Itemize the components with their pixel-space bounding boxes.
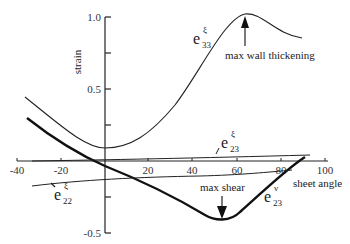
- curve-e33-xi: [25, 14, 302, 148]
- label-e22-xi: e ξ 22: [51, 181, 72, 206]
- svg-text:22: 22: [63, 196, 72, 206]
- x-tick-20: 20: [143, 164, 155, 176]
- arrow-up-icon: [241, 16, 249, 28]
- x-tick-neg20: -20: [54, 164, 69, 176]
- svg-text:ξ: ξ: [203, 25, 207, 35]
- x-tick-neg40: -40: [10, 164, 25, 176]
- svg-text:e: e: [54, 186, 61, 203]
- svg-text:ξ: ξ: [64, 181, 68, 191]
- y-tick-1: 1.0: [87, 11, 101, 23]
- x-tick-40: 40: [187, 164, 199, 176]
- label-e33-xi: e ξ 33: [193, 25, 212, 50]
- arrow-down-icon: [217, 206, 227, 219]
- svg-text:23: 23: [273, 198, 283, 208]
- svg-text:e: e: [193, 30, 200, 47]
- curve-e22-xi: [32, 170, 292, 186]
- x-axis: -40 -20 20 40 60 80 100 sheet angle: [10, 158, 343, 189]
- svg-text:e: e: [221, 134, 228, 151]
- y-axis: 1.0 0.5 -0.5 strain: [71, 11, 111, 239]
- svg-text:max wall thickening: max wall thickening: [225, 49, 315, 61]
- svg-text:23: 23: [230, 144, 240, 154]
- svg-text:33: 33: [202, 40, 212, 50]
- x-tick-100: 100: [317, 164, 334, 176]
- svg-text:e: e: [264, 188, 271, 205]
- svg-text:max shear: max shear: [200, 181, 245, 193]
- y-axis-label: strain: [71, 49, 83, 74]
- svg-text:ν: ν: [274, 183, 278, 193]
- strain-chart: 1.0 0.5 -0.5 strain -40 -20 20 40 60 80 …: [0, 0, 350, 244]
- svg-text:ξ: ξ: [231, 129, 235, 139]
- x-axis-label: sheet angle: [293, 177, 342, 189]
- curve-e23-xi: [32, 155, 310, 161]
- y-tick-0-5: 0.5: [87, 83, 101, 95]
- y-tick-neg-0-5: -0.5: [84, 227, 102, 239]
- label-e23-xi: e ξ 23: [216, 129, 240, 154]
